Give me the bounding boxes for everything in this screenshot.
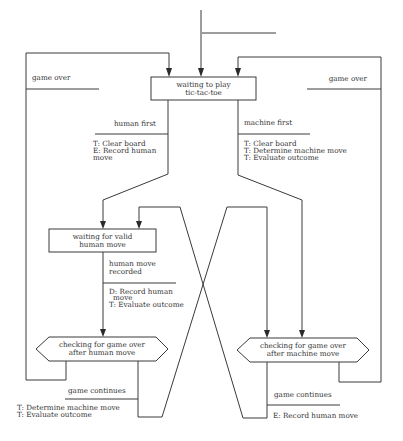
event-label: game over — [32, 73, 71, 82]
state-label: tic-tac-toe — [185, 88, 222, 97]
transition-game-over-right: game over — [235, 57, 381, 382]
state-waiting-to-play: waiting to play tic-tac-toe — [151, 77, 256, 100]
state-label: after machine move — [267, 349, 340, 358]
arrow-down-icon — [198, 68, 204, 77]
action-label: T: Evaluate outcome — [244, 153, 319, 162]
action-label: T: Evaluate outcome — [109, 300, 184, 309]
event-label: machine first — [244, 118, 292, 127]
event-label: game over — [329, 74, 368, 83]
action-label: E: Record human move — [273, 411, 358, 420]
event-label: recorded — [109, 267, 142, 276]
state-diagram: game over game over waiting to play tic-… — [0, 0, 403, 441]
transition-game-continues-machine: game continues E: Record human move — [136, 207, 358, 420]
transition-human-first: human first T: Clear board E: Record hum… — [93, 100, 168, 229]
action-label: move — [93, 153, 112, 162]
arrow-down-icon — [166, 68, 172, 77]
state-waiting-human-move: waiting for valid human move — [49, 229, 156, 252]
arrow-down-icon — [100, 329, 106, 337]
state-check-after-machine: checking for game over after machine mov… — [237, 338, 369, 362]
transition-human-move-recorded: human move recorded D: Record human move… — [100, 252, 184, 337]
event-label: human first — [114, 119, 156, 128]
initial-transition — [198, 10, 276, 77]
event-label: game continues — [68, 386, 126, 395]
arrow-down-icon — [264, 330, 270, 338]
action-label: T: Evaluate outcome — [17, 410, 92, 419]
state-check-after-human: checking for game over after human move — [36, 337, 168, 361]
arrow-down-icon — [100, 221, 106, 229]
state-label: human move — [79, 240, 126, 249]
event-label: game continues — [274, 390, 332, 399]
arrow-down-icon — [299, 330, 305, 338]
arrow-down-icon — [136, 221, 142, 229]
state-label: after human move — [69, 348, 136, 357]
arrow-down-icon — [235, 68, 241, 77]
transition-machine-first: machine first T: Clear board T: Determin… — [238, 100, 347, 338]
transition-game-over-left: game over — [26, 53, 172, 380]
